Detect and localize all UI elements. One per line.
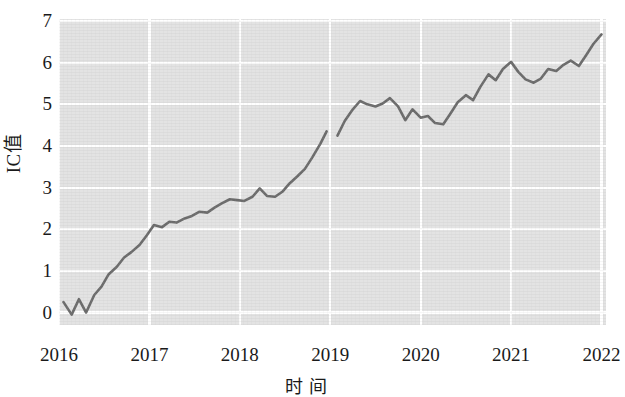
series-line-segment-1	[337, 34, 601, 135]
x-tick-label: 2018	[200, 345, 280, 365]
x-tick-label: 2019	[290, 345, 370, 365]
y-tick-label: 5	[10, 94, 52, 113]
plot-area	[59, 19, 606, 325]
y-axis-tick-labels: 01234567	[0, 0, 52, 397]
y-tick-label: 3	[10, 178, 52, 197]
y-tick-label: 4	[10, 136, 52, 155]
x-tick-label: 2017	[109, 345, 189, 365]
x-axis-label: 时 间	[0, 372, 613, 397]
x-tick-label: 2021	[471, 345, 551, 365]
y-tick-label: 7	[10, 11, 52, 30]
y-tick-label: 6	[10, 53, 52, 72]
y-tick-label: 2	[10, 219, 52, 238]
line-chart-svg	[59, 19, 606, 325]
x-tick-label: 2016	[19, 345, 99, 365]
x-tick-label: 2020	[381, 345, 461, 365]
gridlines	[59, 19, 606, 325]
series-line-segment-0	[64, 131, 327, 314]
x-tick-label: 2022	[561, 345, 625, 365]
y-tick-label: 1	[10, 261, 52, 280]
data-series	[64, 34, 602, 314]
y-tick-label: 0	[10, 303, 52, 322]
